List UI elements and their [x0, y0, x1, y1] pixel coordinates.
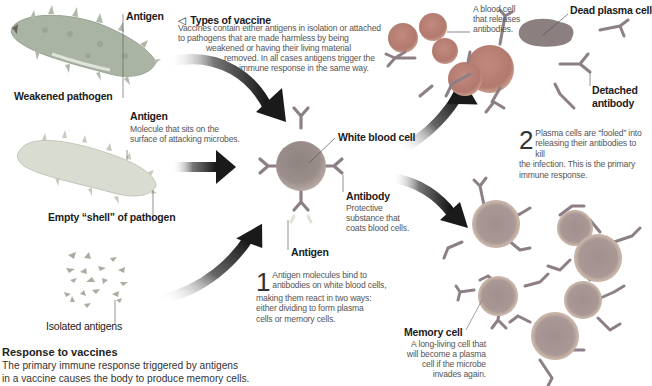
label-empty-shell: Empty “shell” of pathogen	[48, 211, 175, 223]
step-number: 2	[519, 129, 533, 151]
isolated-antigens-icon	[64, 252, 128, 308]
label-dead-plasma-cell: Dead plasma cell	[570, 4, 652, 16]
plasma-desc-1: A blood cell	[473, 4, 515, 14]
label-antigen-top: Antigen	[126, 10, 164, 22]
arrow-icon	[392, 178, 468, 228]
white-blood-cell-icon	[260, 108, 342, 222]
step-1-line-2: antibodies on white blood cells,	[256, 280, 406, 290]
step-1-line-4: either dividing to form plasma	[256, 303, 406, 313]
label-antibody: Antibody	[346, 190, 390, 202]
footer-line-2: in a vaccine causes the body to produce …	[2, 373, 249, 385]
step-2: 2 Plasma cells are “fooled” into releasi…	[519, 128, 642, 180]
antibody-desc-3: coats blood cells.	[346, 223, 409, 233]
footer-line-1: The primary immune response triggered by…	[2, 360, 238, 372]
label-isolated-antigens: Isolated antigens	[46, 320, 122, 332]
step-2-line-3: the infection. This is the primary	[519, 159, 642, 169]
intro-line-1: Vaccines contain either antigens in isol…	[178, 23, 381, 33]
label-detached-1: Detached	[592, 84, 638, 96]
label-memory-cell: Memory cell	[404, 326, 463, 338]
memory-desc-3: cell if the microbe	[380, 359, 486, 369]
step-1-line-5: cells or memory cells.	[256, 314, 406, 324]
memory-desc-1: A long-living cell that	[380, 339, 486, 349]
plasma-desc-2: that releases	[473, 14, 520, 24]
step-1-line-1: Antigen molecules bind to	[256, 270, 406, 280]
step-2-line-4: immune response.	[519, 170, 642, 180]
label-detached-2: antibody	[592, 97, 634, 109]
step-2-line-2: releasing their antibodies to kill	[519, 138, 642, 159]
memory-desc-4: invades again.	[380, 369, 486, 379]
antigen-desc-2: surface of attacking microbes.	[130, 134, 240, 144]
step-number: 1	[256, 271, 270, 293]
antibody-desc-1: Protective	[346, 203, 383, 213]
label-weakened-pathogen: Weakened pathogen	[14, 90, 113, 102]
step-2-line-1: Plasma cells are “fooled” into	[519, 128, 642, 138]
footer-title: Response to vaccines	[2, 346, 118, 358]
intro-line-2: to pathogens that are made harmless by b…	[178, 33, 349, 43]
step-1-line-3: making them react in two ways:	[256, 293, 406, 303]
step-1: 1 Antigen molecules bind to antibodies o…	[256, 270, 406, 324]
arrow-icon	[160, 224, 266, 300]
intro-line-3: weakened or having their living material	[206, 43, 351, 53]
arrow-icon	[172, 150, 236, 184]
label-white-blood-cell: White blood cell	[338, 131, 415, 143]
plasma-desc-3: antibodies.	[473, 24, 513, 34]
label-antigen-bottom: Antigen	[291, 246, 329, 258]
memory-desc-2: will become a plasma	[380, 349, 486, 359]
intro-line-5: immune response in the same way.	[239, 63, 369, 73]
antigen-desc-1: Molecule that sits on the	[130, 124, 219, 134]
antibody-desc-2: substance that	[346, 213, 400, 223]
label-antigen-mid: Antigen	[130, 110, 168, 122]
intro-line-4: removed. In all cases antigens trigger t…	[224, 53, 375, 63]
